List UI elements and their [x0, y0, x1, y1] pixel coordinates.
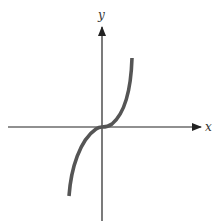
cubic-graph: y x: [0, 0, 217, 221]
x-axis-label: x: [205, 120, 212, 134]
y-axis-label: y: [97, 8, 105, 22]
